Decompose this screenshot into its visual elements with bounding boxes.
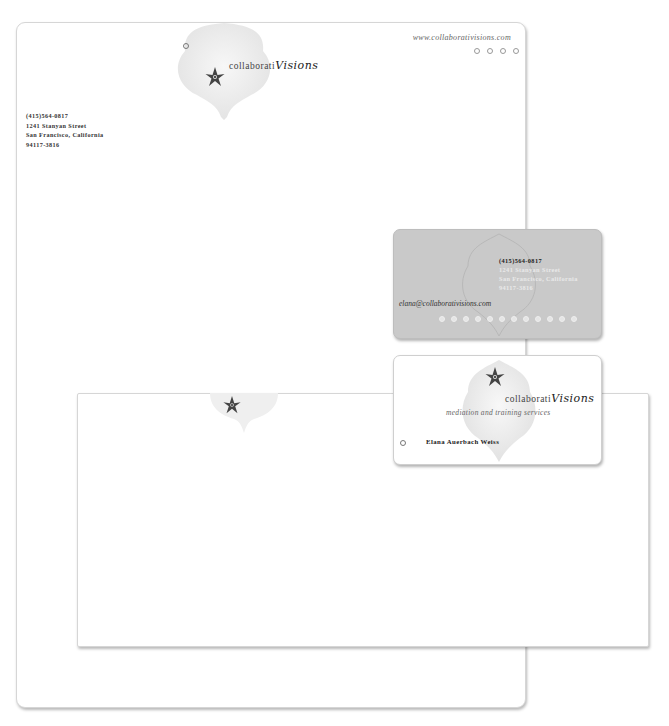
city-state: San Francisco, California bbox=[499, 274, 578, 283]
dot-icon bbox=[499, 316, 505, 322]
dot-icon bbox=[559, 316, 565, 322]
ring-icon bbox=[183, 43, 189, 49]
caption: Collaborati Visions identity bbox=[0, 717, 105, 726]
decorative-dots bbox=[474, 48, 519, 54]
dot-icon bbox=[547, 316, 553, 322]
letterhead-address: (415)564-0817 1241 Stanyan Street San Fr… bbox=[26, 111, 104, 149]
card-contact: (415)564-0817 1241 Stanyan Street San Fr… bbox=[499, 256, 578, 292]
dot-icon bbox=[463, 316, 469, 322]
dot-icon bbox=[451, 316, 457, 322]
ring-icon bbox=[400, 440, 406, 446]
dot-icon bbox=[475, 316, 481, 322]
dot-icon bbox=[523, 316, 529, 322]
decorative-dots bbox=[439, 316, 577, 322]
dot-icon bbox=[571, 316, 577, 322]
website-url[interactable]: www.collaborativisions.com bbox=[413, 33, 511, 42]
brand-prefix: collaborati bbox=[229, 61, 275, 71]
phone: (415)564-0817 bbox=[26, 111, 104, 121]
zip: 94117-3816 bbox=[26, 140, 104, 150]
brand-wordmark: collaboratiVisions bbox=[229, 59, 318, 72]
brand-suffix: Visions bbox=[551, 392, 594, 405]
dot-icon bbox=[500, 48, 506, 54]
phone: (415)564-0817 bbox=[499, 256, 578, 265]
flower-logo-icon bbox=[222, 395, 242, 415]
dot-icon bbox=[535, 316, 541, 322]
street: 1241 Stanyan Street bbox=[499, 265, 578, 274]
tagline: mediation and training services bbox=[446, 408, 551, 417]
brand-suffix: Visions bbox=[275, 59, 318, 72]
dot-icon bbox=[487, 48, 493, 54]
business-card-back: (415)564-0817 1241 Stanyan Street San Fr… bbox=[393, 229, 602, 339]
city-state: San Francisco, California bbox=[26, 130, 104, 140]
flower-logo-icon bbox=[204, 66, 226, 88]
business-card-front: collaboratiVisions mediation and trainin… bbox=[393, 355, 602, 465]
ornament-blob-icon bbox=[208, 393, 280, 433]
zip: 94117-3816 bbox=[499, 283, 578, 292]
dot-icon bbox=[439, 316, 445, 322]
dot-icon bbox=[487, 316, 493, 322]
dot-icon bbox=[474, 48, 480, 54]
person-name: Elana Auerbach Weiss bbox=[426, 438, 499, 445]
dot-icon bbox=[511, 316, 517, 322]
street: 1241 Stanyan Street bbox=[26, 121, 104, 131]
brand-prefix: collaborati bbox=[505, 394, 551, 404]
email-address[interactable]: elana@collaborativisions.com bbox=[399, 299, 491, 308]
brand-wordmark: collaboratiVisions bbox=[505, 392, 594, 405]
dot-icon bbox=[513, 48, 519, 54]
flower-logo-icon bbox=[484, 366, 506, 388]
